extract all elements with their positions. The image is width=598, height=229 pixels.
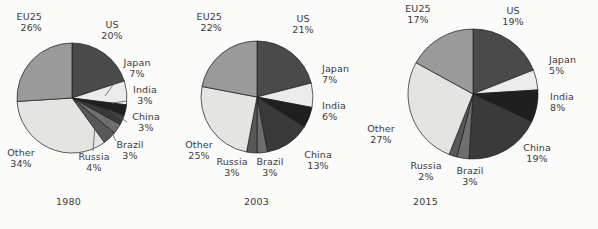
slice-label-japan-1980: Japan 7% xyxy=(118,58,156,79)
slice-percent: 6% xyxy=(322,112,358,123)
slice-name: Brazil xyxy=(451,166,489,177)
slice-label-china-1980: China 3% xyxy=(128,112,164,133)
slice-percent: 25% xyxy=(180,151,218,162)
chart-year-1980: 1980 xyxy=(56,196,81,207)
slice-name: EU25 xyxy=(398,4,438,15)
slice-name: Russia xyxy=(74,152,114,163)
slice-percent: 34% xyxy=(2,159,40,170)
slice-percent: 22% xyxy=(180,23,222,34)
slice-percent: 21% xyxy=(286,25,320,36)
slice-label-china-2015: China 19% xyxy=(518,143,556,164)
slice-label-russia-2003: Russia 3% xyxy=(212,157,252,178)
slice-label-india-2015: India 8% xyxy=(550,92,588,113)
slice-label-other-2003: Other 25% xyxy=(180,140,218,161)
slice-percent: 5% xyxy=(549,66,591,77)
slice-label-eu25-1980: EU25 26% xyxy=(0,12,42,33)
slice-percent: 27% xyxy=(362,135,400,146)
slice-label-india-1980: India 3% xyxy=(128,85,162,106)
slice-name: Other xyxy=(362,124,400,135)
slice-label-eu25-2003: EU25 22% xyxy=(180,12,222,33)
slice-percent: 3% xyxy=(128,123,164,134)
slice-percent: 2% xyxy=(405,172,447,183)
slice-name: China xyxy=(300,150,336,161)
slice-percent: 3% xyxy=(252,168,288,179)
slice-label-brazil-2003: Brazil 3% xyxy=(252,157,288,178)
chart-year-2015: 2015 xyxy=(413,196,438,207)
slice-name: Russia xyxy=(212,157,252,168)
slice-name: Russia xyxy=(405,161,447,172)
slice-name: Japan xyxy=(118,58,156,69)
slice-label-brazil-1980: Brazil 3% xyxy=(112,140,148,161)
slice-label-other-1980: Other 34% xyxy=(2,148,40,169)
slice-name: EU25 xyxy=(180,12,222,23)
slice-name: India xyxy=(128,85,162,96)
slice-name: US xyxy=(286,14,320,25)
slice-percent: 20% xyxy=(95,31,129,42)
slice-label-india-2003: India 6% xyxy=(322,101,358,122)
slice-label-other-2015: Other 27% xyxy=(362,124,400,145)
slice-name: Japan xyxy=(322,64,362,75)
slice-label-us-1980: US 20% xyxy=(95,20,129,41)
slice-name: India xyxy=(322,101,358,112)
slice-percent: 4% xyxy=(74,163,114,174)
pie-chart-2003 xyxy=(200,40,314,154)
slice-name: Other xyxy=(2,148,40,159)
pie-chart-2015 xyxy=(407,28,539,160)
chart-year-2003: 2003 xyxy=(244,196,269,207)
slice-label-china-2003: China 13% xyxy=(300,150,336,171)
slice-name: China xyxy=(518,143,556,154)
slice-percent: 3% xyxy=(451,177,489,188)
slice-name: EU25 xyxy=(0,12,42,23)
slice-name: Other xyxy=(180,140,218,151)
pie-chart-figure: EU25 26% US 20% Japan 7% India 3% China … xyxy=(0,0,598,229)
slice-name: India xyxy=(550,92,588,103)
slice-name: Brazil xyxy=(252,157,288,168)
slice-label-japan-2015: Japan 5% xyxy=(549,55,591,76)
slice-label-brazil-2015: Brazil 3% xyxy=(451,166,489,187)
slice-name: Brazil xyxy=(112,140,148,151)
slice-name: US xyxy=(95,20,129,31)
slice-label-japan-2003: Japan 7% xyxy=(322,64,362,85)
slice-label-russia-1980: Russia 4% xyxy=(74,152,114,173)
slice-percent: 7% xyxy=(118,69,156,80)
slice-percent: 7% xyxy=(322,75,362,86)
slice-label-eu25-2015: EU25 17% xyxy=(398,4,438,25)
slice-percent: 19% xyxy=(518,154,556,165)
slice-percent: 13% xyxy=(300,161,336,172)
slice-percent: 17% xyxy=(398,15,438,26)
slice-label-us-2003: US 21% xyxy=(286,14,320,35)
slice-name: US xyxy=(496,6,530,17)
slice-percent: 3% xyxy=(112,151,148,162)
slice-name: China xyxy=(128,112,164,123)
slice-label-us-2015: US 19% xyxy=(496,6,530,27)
slice-label-russia-2015: Russia 2% xyxy=(405,161,447,182)
slice-percent: 3% xyxy=(128,96,162,107)
slice-percent: 8% xyxy=(550,103,588,114)
slice-percent: 26% xyxy=(0,23,42,34)
slice-percent: 3% xyxy=(212,168,252,179)
slice-name: Japan xyxy=(549,55,591,66)
slice-percent: 19% xyxy=(496,17,530,28)
